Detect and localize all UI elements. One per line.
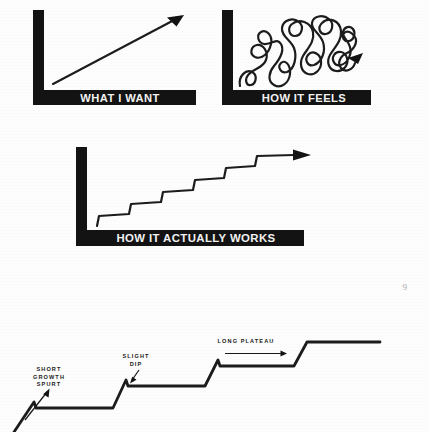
annotation-long-plateau: LONG PLATEAU: [218, 338, 287, 357]
panel-caption-what-i-want: WHAT I WANT: [80, 92, 159, 104]
panel-how-it-actually-works: HOW IT ACTUALLY WORKS: [72, 143, 344, 260]
annotation-short-growth-spurt-line-2: GROWTH: [33, 374, 65, 380]
staircase-path: [14, 342, 380, 432]
annotation-slight-dip-line-1: SLIGHT: [122, 353, 149, 359]
page-number: 9: [403, 282, 408, 292]
annotation-short-growth-spurt-line-1: SHORT: [36, 366, 61, 372]
panel-caption-how-it-feels: HOW IT FEELS: [262, 92, 346, 104]
annotated-staircase-figure: SHORT GROWTH SPURT SLIGHT DIP LONG P: [0, 330, 429, 432]
chaotic-squiggle-arrow-icon: [240, 16, 363, 86]
panel-what-i-want: WHAT I WANT: [28, 6, 204, 118]
annotation-long-plateau-label: LONG PLATEAU: [218, 338, 275, 344]
long-plateau-pointer-arrow-icon: [225, 351, 287, 357]
annotation-short-growth-spurt-line-3: SPURT: [37, 381, 61, 387]
panel-caption-how-it-actually-works: HOW IT ACTUALLY WORKS: [116, 232, 275, 244]
annotation-short-growth-spurt: SHORT GROWTH SPURT: [25, 366, 65, 420]
short-growth-spurt-pointer-arrow-icon: [25, 389, 50, 421]
straight-rising-arrow-icon: [53, 15, 184, 84]
panel-how-it-feels: HOW IT FEELS: [219, 6, 389, 118]
staircase-arrow-icon: [97, 150, 311, 227]
slight-dip-pointer-arrow-icon: [130, 370, 139, 384]
annotation-slight-dip-line-2: DIP: [130, 361, 143, 367]
scanned-page: WHAT I WANT HOW IT FEELS HOW IT A: [0, 0, 429, 432]
